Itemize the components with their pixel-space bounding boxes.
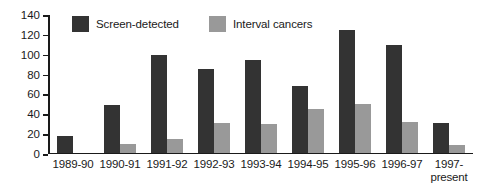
bar: [104, 105, 120, 153]
bar: [261, 124, 277, 153]
y-tick-mark: [43, 15, 48, 17]
y-tick-mark: [43, 55, 48, 57]
bar-group: [332, 15, 379, 153]
y-tick-mark: [43, 75, 48, 77]
plot-area: 140120100806040200: [48, 15, 473, 154]
x-tick-label: 1990-91: [97, 158, 144, 183]
bar: [308, 109, 324, 153]
y-tick-label: 60: [27, 88, 40, 100]
y-tick-mark: [43, 114, 48, 116]
x-tick-label: 1994-95: [285, 158, 332, 183]
y-tick-label: 40: [27, 108, 40, 120]
bar-group: [97, 15, 144, 153]
x-axis-category-labels: 1989-901990-911991-921992-931993-941994-…: [50, 158, 473, 183]
x-tick-label: 1991-92: [144, 158, 191, 183]
bar-group: [238, 15, 285, 153]
bar-group: [50, 15, 97, 153]
y-tick-mark: [43, 134, 48, 136]
bar: [449, 145, 465, 153]
y-tick-label: 120: [21, 29, 40, 41]
bar: [57, 136, 73, 153]
bar: [198, 69, 214, 152]
bar-group: [379, 15, 426, 153]
bar-group: [426, 15, 473, 153]
bar-series-container: [50, 15, 473, 153]
y-tick-mark: [43, 94, 48, 96]
bar: [433, 123, 449, 153]
bar: [151, 55, 167, 152]
y-tick-label: 100: [21, 49, 40, 61]
bar: [245, 60, 261, 152]
y-tick-label: 0: [34, 148, 40, 160]
x-tick-label: 1995-96: [332, 158, 379, 183]
y-tick-label: 140: [21, 9, 40, 21]
y-tick-mark: [43, 35, 48, 37]
bar-chart: Screen-detected Interval cancers 1401201…: [0, 0, 480, 195]
y-tick-label: 80: [27, 69, 40, 81]
y-tick-label: 20: [27, 128, 40, 140]
x-axis-line: [48, 153, 473, 155]
bar: [386, 45, 402, 152]
bar: [167, 139, 183, 153]
x-tick-label: 1993-94: [238, 158, 285, 183]
x-tick-label: 1997-present: [426, 158, 473, 183]
bar: [214, 123, 230, 153]
x-tick-label: 1989-90: [50, 158, 97, 183]
x-tick-label: 1992-93: [191, 158, 238, 183]
bar-group: [285, 15, 332, 153]
x-tick-label: 1996-97: [379, 158, 426, 183]
bar-group: [191, 15, 238, 153]
bar: [355, 104, 371, 153]
bar: [292, 86, 308, 153]
y-tick-mark: [43, 154, 48, 156]
bar: [339, 30, 355, 152]
bar-group: [144, 15, 191, 153]
bar: [120, 144, 136, 153]
bar: [402, 122, 418, 153]
